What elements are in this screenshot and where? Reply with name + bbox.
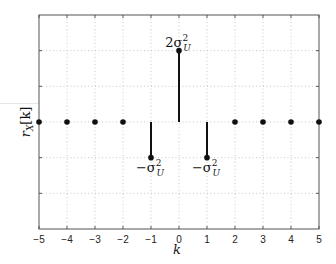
stem-chart: −5−4−3−2−1012345 2σ2U −σ2U −σ2U k rX[k]	[0, 0, 336, 264]
stem-marker	[64, 119, 70, 125]
x-axis-label: k	[173, 242, 181, 257]
stem-marker	[288, 119, 294, 125]
x-tick-label: −1	[145, 234, 157, 245]
x-tick-label: −4	[61, 234, 73, 245]
stem-marker	[120, 119, 126, 125]
stem-marker	[260, 119, 266, 125]
y-axis-label: rX[k]	[18, 107, 35, 138]
x-tick-label: −5	[33, 234, 45, 245]
stem-marker	[232, 119, 238, 125]
x-tick-label: −2	[117, 234, 129, 245]
svg-text:rX[k]: rX[k]	[18, 107, 35, 138]
stem-series	[36, 48, 322, 161]
stem-marker	[36, 119, 42, 125]
x-tick-label: 4	[288, 234, 294, 245]
stem-marker	[316, 119, 322, 125]
x-tick-label: −3	[89, 234, 101, 245]
stem-marker	[92, 119, 98, 125]
x-tick-label: 1	[204, 234, 210, 245]
x-tick-label: 5	[316, 234, 322, 245]
x-tick-label: 3	[260, 234, 266, 245]
x-tick-label: 2	[232, 234, 238, 245]
annotation-neg-right: −σ2U	[192, 158, 221, 178]
annotation-neg-left: −σ2U	[136, 158, 165, 178]
